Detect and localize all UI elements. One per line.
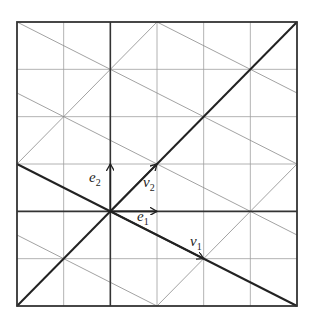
line-parallel-v2 bbox=[17, 22, 157, 164]
label-v1: v1 bbox=[190, 233, 202, 252]
label-v2: v2 bbox=[143, 174, 155, 193]
lattice-basis-diagram: e2 e1 v2 v1 bbox=[0, 0, 311, 333]
line-parallel-v1 bbox=[17, 235, 157, 306]
label-e2: e2 bbox=[89, 169, 101, 188]
line-parallel-v2 bbox=[157, 164, 297, 306]
line-parallel-v1 bbox=[157, 22, 297, 93]
